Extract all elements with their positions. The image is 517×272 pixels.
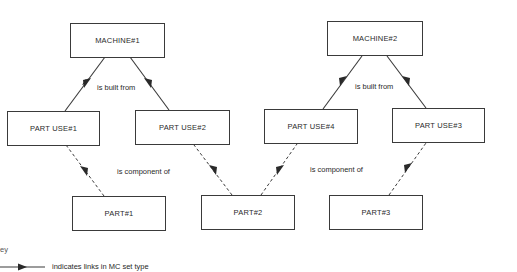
node-label: PART#1	[105, 209, 134, 218]
node-part-use-4: PART USE#4	[264, 109, 358, 144]
node-part-3: PART#3	[329, 195, 423, 230]
node-label: PART USE#4	[287, 122, 334, 131]
edge-label-built-from-2: is built from	[355, 82, 393, 91]
edge-part2-partuse4	[261, 144, 297, 195]
node-label: PART USE#1	[30, 124, 77, 133]
edge-label-component-of-2: is component of	[310, 165, 363, 174]
node-machine-2: MACHINE#2	[327, 21, 423, 56]
node-label: MACHINE#2	[353, 34, 398, 43]
key-title: ey	[0, 245, 8, 254]
edge-label-built-from-1: is built from	[97, 83, 135, 92]
key-item-text: indicates links in MC set type	[52, 262, 149, 271]
node-part-use-3: PART USE#3	[392, 108, 485, 143]
node-label: PART USE#2	[159, 123, 206, 132]
node-part-1: PART#1	[72, 196, 166, 231]
edge-label-component-of-1: is component of	[117, 167, 170, 176]
edge-part3-partuse3	[389, 143, 426, 195]
node-label: MACHINE#1	[95, 36, 140, 45]
node-part-2: PART#2	[201, 195, 295, 230]
node-machine-1: MACHINE#1	[70, 23, 165, 58]
edge-machine1-partuse2	[130, 57, 169, 110]
key-solid-arrow-icon	[0, 264, 45, 271]
node-label: PART USE#3	[415, 121, 462, 130]
node-part-use-1: PART USE#1	[7, 111, 100, 146]
node-label: PART#3	[362, 208, 391, 217]
node-label: PART#2	[234, 208, 263, 217]
edge-part2-partuse2	[194, 145, 232, 195]
node-part-use-2: PART USE#2	[135, 110, 230, 145]
edge-part1-partuse1	[66, 145, 104, 196]
